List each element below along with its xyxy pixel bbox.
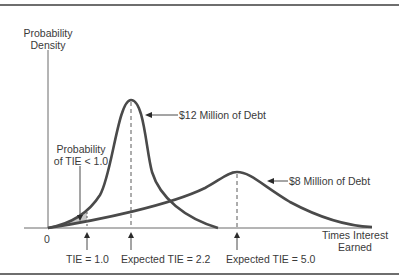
arrow-expected-2-2 [128,232,134,250]
arrow-expected-5-0 [234,232,240,250]
x-axis-label-line1: Times Interest [312,229,398,241]
probability-annotation-line2: of TIE < 1.0 [46,155,116,167]
y-axis-label-line2: Density [18,39,78,51]
x-axis-label: Times Interest Earned [312,229,398,253]
arrow-label-12m [145,112,178,118]
probability-annotation-line1: Probability [46,143,116,155]
label-tie-1: TIE = 1.0 [66,253,109,265]
origin-label: 0 [44,233,50,245]
y-axis-label-line1: Probability [18,27,78,39]
x-axis-label-line2: Earned [312,241,398,253]
label-8-million-debt: $8 Million of Debt [289,175,370,187]
label-expected-5-0: Expected TIE = 5.0 [226,253,315,265]
y-axis-label: Probability Density [18,27,78,51]
label-12-million-debt: $12 Million of Debt [179,109,266,121]
probability-annotation: Probability of TIE < 1.0 [46,143,116,167]
arrow-label-8m [267,178,288,184]
arrow-tie-1 [84,232,90,250]
label-expected-2-2: Expected TIE = 2.2 [121,253,210,265]
